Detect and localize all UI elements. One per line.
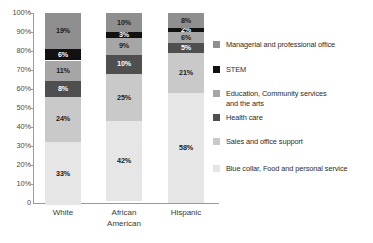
bar-segment-value-label: 5%: [181, 44, 191, 52]
legend-item-label: Health care: [226, 113, 263, 123]
bar-segment-value-label: 8%: [181, 17, 191, 25]
legend-item[interactable]: Health care: [213, 113, 263, 123]
legend-item[interactable]: Education, Community servicesand the art…: [213, 89, 327, 108]
bar-segment-value-label: 6%: [181, 34, 191, 42]
bar-segment[interactable]: 5%: [168, 43, 204, 53]
bar-segment[interactable]: 10%: [106, 13, 142, 32]
bar-segment[interactable]: 9%: [106, 38, 142, 55]
y-axis-tick-label: 0: [0, 199, 31, 207]
legend-item[interactable]: Sales and office support: [213, 137, 303, 147]
bar-segment[interactable]: 6%: [168, 32, 204, 43]
bar-segment[interactable]: 10%: [106, 55, 142, 74]
legend-item-label: STEM: [226, 65, 246, 75]
y-axis-tick-mark: [30, 184, 34, 185]
y-axis-tick-mark: [30, 13, 34, 14]
x-axis-category-label-line: American: [84, 218, 164, 229]
legend-item[interactable]: Blue collar, Food and personal service: [213, 164, 348, 174]
bar-segment[interactable]: 58%: [168, 93, 204, 203]
legend-color-swatch: [213, 114, 220, 121]
x-axis-category-labels: WhiteAfricanAmericanHispanic: [34, 207, 219, 241]
bar-column[interactable]: 8%2%6%5%21%58%: [168, 13, 204, 203]
y-axis-tick-label: 50%: [0, 104, 31, 112]
bar-segment[interactable]: 42%: [106, 121, 142, 201]
bar-segment-value-label: 8%: [58, 85, 68, 93]
bar-segment-value-label: 19%: [56, 27, 70, 35]
bar-segment[interactable]: 33%: [45, 142, 81, 205]
y-axis-tick-label: 80%: [0, 47, 31, 55]
y-axis-tick-label: 10%: [0, 180, 31, 188]
bar-segment-value-label: 10%: [117, 60, 131, 68]
bar-stack: 19%6%11%8%24%33%: [45, 13, 81, 203]
legend-item-label: Education, Community servicesand the art…: [226, 89, 327, 108]
y-axis-tick-label: 60%: [0, 85, 31, 93]
bar-segment[interactable]: 8%: [168, 13, 204, 28]
bar-segment-value-label: 9%: [119, 42, 129, 50]
y-axis-tick-mark: [30, 127, 34, 128]
bar-segment[interactable]: 8%: [45, 81, 81, 96]
bar-column[interactable]: 19%6%11%8%24%33%: [45, 13, 81, 203]
legend-item-label: Managerial and professional office: [226, 40, 335, 50]
bar-segment[interactable]: 25%: [106, 74, 142, 122]
bar-segment[interactable]: 6%: [45, 49, 81, 60]
y-axis-tick-mark: [30, 32, 34, 33]
x-axis-category-label-line: Hispanic: [146, 207, 226, 218]
x-axis-category-label: Hispanic: [146, 207, 226, 218]
y-axis-tick-mark: [30, 51, 34, 52]
y-axis-tick-mark: [30, 108, 34, 109]
bar-segment-value-label: 21%: [179, 69, 193, 77]
bar-stack: 10%3%9%10%25%42%: [106, 13, 142, 203]
bar-segment-value-label: 10%: [117, 19, 131, 27]
legend-color-swatch: [213, 41, 220, 48]
y-axis-tick-mark: [30, 165, 34, 166]
bar-segment-value-label: 6%: [58, 51, 68, 59]
bar-stack: 8%2%6%5%21%58%: [168, 13, 204, 203]
plot-area: 19%6%11%8%24%33%10%3%9%10%25%42%8%2%6%5%…: [34, 13, 219, 203]
stacked-bar-chart: 100%90%80%70%60%50%40%30%20%10%0 19%6%11…: [0, 0, 373, 243]
bar-segment-value-label: 11%: [56, 67, 70, 75]
bar-segment-value-label: 33%: [56, 170, 70, 178]
bar-column[interactable]: 10%3%9%10%25%42%: [106, 13, 142, 203]
bar-segment[interactable]: 11%: [45, 61, 81, 82]
bar-segment-value-label: 24%: [56, 115, 70, 123]
legend-color-swatch: [213, 66, 220, 73]
bar-segment[interactable]: 24%: [45, 97, 81, 143]
bar-segment-value-label: 42%: [117, 157, 131, 165]
y-axis-tick-label: 70%: [0, 66, 31, 74]
y-axis-tick-mark: [30, 146, 34, 147]
legend-item[interactable]: STEM: [213, 65, 246, 75]
bar-segment[interactable]: 21%: [168, 53, 204, 93]
legend-color-swatch: [213, 90, 220, 97]
y-axis: 100%90%80%70%60%50%40%30%20%10%0: [0, 13, 31, 203]
bar-segment-value-label: 58%: [179, 144, 193, 152]
y-axis-tick-label: 20%: [0, 161, 31, 169]
y-axis-tick-mark: [30, 70, 34, 71]
bar-segment[interactable]: 19%: [45, 13, 81, 49]
y-axis-tick-mark: [30, 89, 34, 90]
legend-color-swatch: [213, 165, 220, 172]
legend-item[interactable]: Managerial and professional office: [213, 40, 335, 50]
bar-segment-value-label: 25%: [117, 94, 131, 102]
y-axis-tick-label: 90%: [0, 28, 31, 36]
legend-item-label: Sales and office support: [226, 137, 303, 147]
y-axis-tick-label: 30%: [0, 142, 31, 150]
legend-color-swatch: [213, 138, 220, 145]
legend-item-label: Blue collar, Food and personal service: [226, 164, 348, 174]
y-axis-tick-label: 40%: [0, 123, 31, 131]
y-axis-tick-label: 100%: [0, 9, 31, 17]
